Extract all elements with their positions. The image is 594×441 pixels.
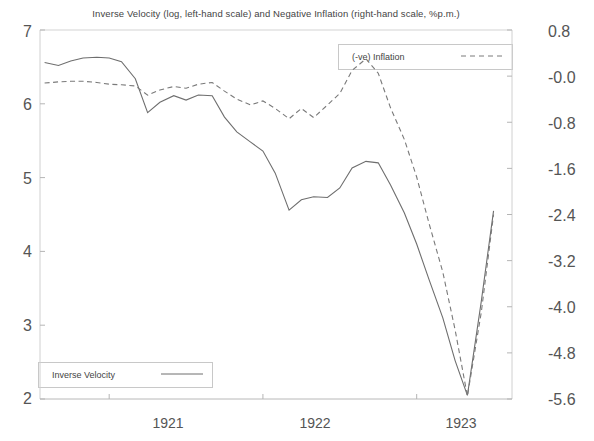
chart-container: Inverse Velocity (log, left-hand scale) …	[0, 0, 594, 441]
axis-ticks	[40, 30, 512, 399]
series-line-inflation	[45, 59, 494, 396]
plot-area	[0, 0, 594, 441]
series-line-inverse-velocity	[45, 57, 494, 395]
